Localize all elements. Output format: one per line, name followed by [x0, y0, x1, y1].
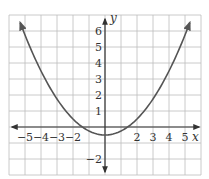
y-tick-label: 5: [95, 41, 102, 54]
axes: [12, 19, 199, 172]
x-tick-label: 2: [134, 131, 141, 144]
x-tick-label: −4: [33, 131, 49, 144]
y-tick-label: 1: [95, 105, 102, 118]
x-tick-label: −2: [65, 131, 81, 144]
x-tick-label: 5: [182, 131, 189, 144]
tick-labels: −5−4−3−22345654321−2: [17, 25, 189, 166]
parabola-graph: −5−4−3−22345654321−2 x y: [0, 0, 209, 179]
x-tick-label: 4: [166, 131, 173, 144]
y-tick-label: 4: [95, 57, 102, 70]
x-tick-label: −3: [49, 131, 65, 144]
y-tick-label: 3: [95, 73, 102, 86]
y-tick-label: −2: [86, 153, 102, 166]
y-axis-label: y: [109, 11, 117, 25]
x-axis-label: x: [192, 130, 199, 144]
y-tick-label: 2: [95, 89, 102, 102]
x-tick-label: −5: [17, 131, 33, 144]
x-tick-label: 3: [150, 131, 157, 144]
y-tick-label: 6: [95, 25, 102, 38]
